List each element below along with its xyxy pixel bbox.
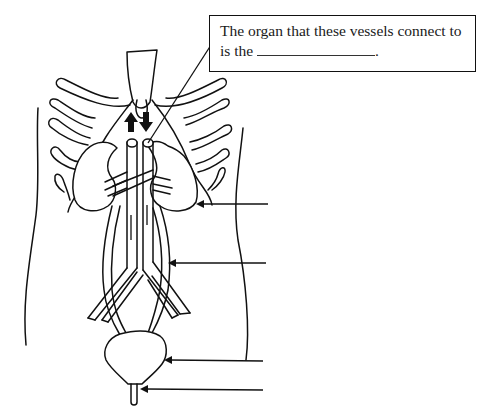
flow-arrow-down-icon	[139, 112, 153, 132]
label-arrow-urethra	[140, 385, 263, 393]
aorta	[143, 142, 153, 270]
iliac-left-inner	[102, 272, 143, 322]
callout-pointer	[148, 45, 211, 143]
vena-cava	[127, 142, 137, 268]
ureter-left	[103, 206, 126, 335]
rib-left-1	[56, 79, 130, 107]
bladder	[105, 331, 167, 384]
rib-left-5	[55, 174, 70, 200]
iliac-right-outer	[143, 262, 190, 315]
flow-arrow-up-icon	[124, 112, 138, 132]
label-arrow-ureter	[168, 259, 266, 267]
label-arrow-bladder	[164, 356, 263, 364]
kidney-left	[73, 142, 117, 211]
torso-right-outline	[236, 128, 248, 360]
vena-cava-opening	[127, 139, 137, 147]
rib-right-1	[155, 79, 226, 107]
rib-right-5	[208, 168, 225, 190]
rib-left-2	[50, 99, 95, 128]
question-callout-box: The organ that these vessels connect to …	[209, 15, 476, 72]
rib-right-3	[190, 125, 231, 150]
rib-left-3	[49, 119, 90, 145]
rib-right-2	[184, 99, 229, 125]
urethra	[131, 384, 137, 405]
torso-left-outline	[25, 108, 38, 345]
answer-blank[interactable]	[257, 41, 375, 56]
question-period: .	[375, 42, 379, 59]
label-arrow-kidney	[196, 200, 268, 208]
sternum	[127, 50, 157, 108]
